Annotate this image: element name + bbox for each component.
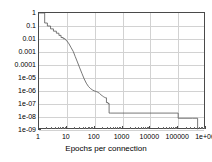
x-tick xyxy=(177,126,178,129)
x-minor-tick xyxy=(79,127,80,129)
x-minor-tick xyxy=(135,127,136,129)
x-minor-tick xyxy=(204,127,205,129)
x-minor-tick xyxy=(102,127,103,129)
x-tick-label: 1000 xyxy=(114,133,130,140)
x-tick xyxy=(94,126,95,129)
x-minor-tick xyxy=(92,127,93,129)
x-minor-tick xyxy=(88,127,89,129)
x-minor-tick xyxy=(55,127,56,129)
y-tick-label: 1e-07 xyxy=(2,100,36,107)
x-minor-tick xyxy=(107,127,108,129)
x-tick-label: 100000 xyxy=(166,133,189,140)
y-axis-tick-labels: 10.10.010.0010.00011e-051e-061e-071e-081… xyxy=(0,0,36,162)
y-tick-label: 1e-08 xyxy=(2,113,36,120)
x-minor-tick xyxy=(83,127,84,129)
x-minor-tick xyxy=(148,127,149,129)
x-minor-tick xyxy=(186,127,187,129)
x-minor-tick xyxy=(74,127,75,129)
y-tick-label: 0.001 xyxy=(2,48,36,55)
y-tick-label: 0.0001 xyxy=(2,61,36,68)
y-tick-label: 1 xyxy=(2,9,36,16)
x-minor-tick xyxy=(120,127,121,129)
data-series-line xyxy=(39,13,206,130)
x-minor-tick xyxy=(171,127,172,129)
x-minor-tick xyxy=(51,127,52,129)
x-tick xyxy=(122,126,123,129)
series-polyline xyxy=(39,13,198,129)
x-minor-tick xyxy=(158,127,159,129)
x-minor-tick xyxy=(166,127,167,129)
x-minor-tick xyxy=(194,127,195,129)
y-tick-label: 1e-05 xyxy=(2,74,36,81)
y-tick-label: 0.01 xyxy=(2,35,36,42)
x-tick xyxy=(149,126,150,129)
x-minor-tick xyxy=(130,127,131,129)
x-minor-tick xyxy=(85,127,86,129)
x-tick xyxy=(205,126,206,129)
x-tick-label: 10000 xyxy=(140,133,159,140)
x-tick-label: 1e+06 xyxy=(195,133,212,140)
x-minor-tick xyxy=(190,127,191,129)
x-minor-tick xyxy=(199,127,200,129)
x-minor-tick xyxy=(110,127,111,129)
plot-area xyxy=(38,12,205,129)
x-minor-tick xyxy=(65,127,66,129)
x-tick-label: 1 xyxy=(36,133,40,140)
x-minor-tick xyxy=(113,127,114,129)
x-tick-label: 100 xyxy=(88,133,100,140)
x-tick xyxy=(66,126,67,129)
y-tick-label: 1e-09 xyxy=(2,126,36,133)
gridline-horizontal xyxy=(39,130,204,131)
x-minor-tick xyxy=(197,127,198,129)
x-minor-tick xyxy=(138,127,139,129)
x-minor-tick xyxy=(176,127,177,129)
x-minor-tick xyxy=(115,127,116,129)
y-tick-label: 1e-06 xyxy=(2,87,36,94)
x-tick xyxy=(38,126,39,129)
x-axis-title: Epochs per connection xyxy=(0,145,212,153)
x-minor-tick xyxy=(169,127,170,129)
x-minor-tick xyxy=(58,127,59,129)
x-minor-tick xyxy=(163,127,164,129)
x-minor-tick xyxy=(141,127,142,129)
chart-figure: 10.10.010.0010.00011e-051e-061e-071e-081… xyxy=(0,0,212,162)
x-tick-label: 10 xyxy=(62,133,70,140)
x-minor-tick xyxy=(46,127,47,129)
y-tick-label: 0.1 xyxy=(2,22,36,29)
